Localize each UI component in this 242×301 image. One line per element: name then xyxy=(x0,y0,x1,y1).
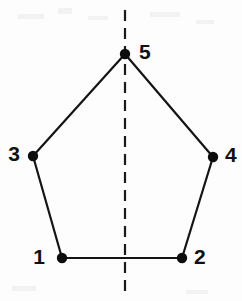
vertex-label-2: 2 xyxy=(194,245,206,268)
pentagon-diagram-canvas: 1 2 3 4 5 xyxy=(0,0,242,301)
vertex-dot-1 xyxy=(57,253,67,263)
pentagon-figure: 1 2 3 4 5 xyxy=(0,0,242,301)
vertex-label-3: 3 xyxy=(8,142,20,165)
vertex-label-4: 4 xyxy=(225,143,237,166)
vertex-dot-3 xyxy=(28,151,38,161)
vertex-label-5: 5 xyxy=(139,40,151,63)
vertex-dot-4 xyxy=(208,152,218,162)
vertex-label-1: 1 xyxy=(33,245,45,268)
vertex-dot-2 xyxy=(177,253,187,263)
vertex-dot-5 xyxy=(120,49,130,59)
